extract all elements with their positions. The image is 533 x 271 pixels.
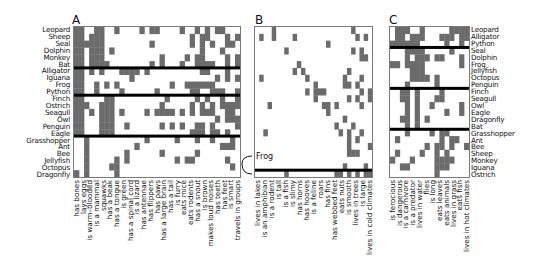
heatmap-cells [74, 27, 240, 177]
panel-b-letter: B [255, 14, 263, 26]
panel-a-matrix [73, 26, 241, 178]
heatmap-cells [390, 27, 469, 177]
panel-c-matrix [389, 26, 470, 178]
frog-label: Frog [256, 152, 273, 161]
row-label: Dragonfly [0, 172, 70, 179]
column-label: lives in cold climates [367, 180, 372, 255]
row-label: Ostrich [471, 172, 533, 179]
panel-c-letter: C [389, 14, 397, 26]
panel-c-column-labels: is ferociousis dangerousis a carnivoreis… [389, 180, 470, 265]
panel-b-column-labels: lives in lakesis an amphibianis a rodent… [254, 180, 373, 270]
panel-a-column-labels: has boneslays eggsis warm–bloodedis a ma… [73, 180, 241, 260]
column-label: lives in hot climates [464, 180, 469, 252]
panel-a-letter: A [72, 14, 80, 26]
panel-c-row-labels: LeopardAlligatorPythonSealDolphinFrogJel… [471, 27, 533, 179]
bracket-arrow-icon [240, 154, 256, 178]
panel-a-row-labels: LeopardSheepSealDolphinMonkeyBatAlligato… [0, 27, 70, 179]
column-label: travels in groups [235, 180, 240, 240]
